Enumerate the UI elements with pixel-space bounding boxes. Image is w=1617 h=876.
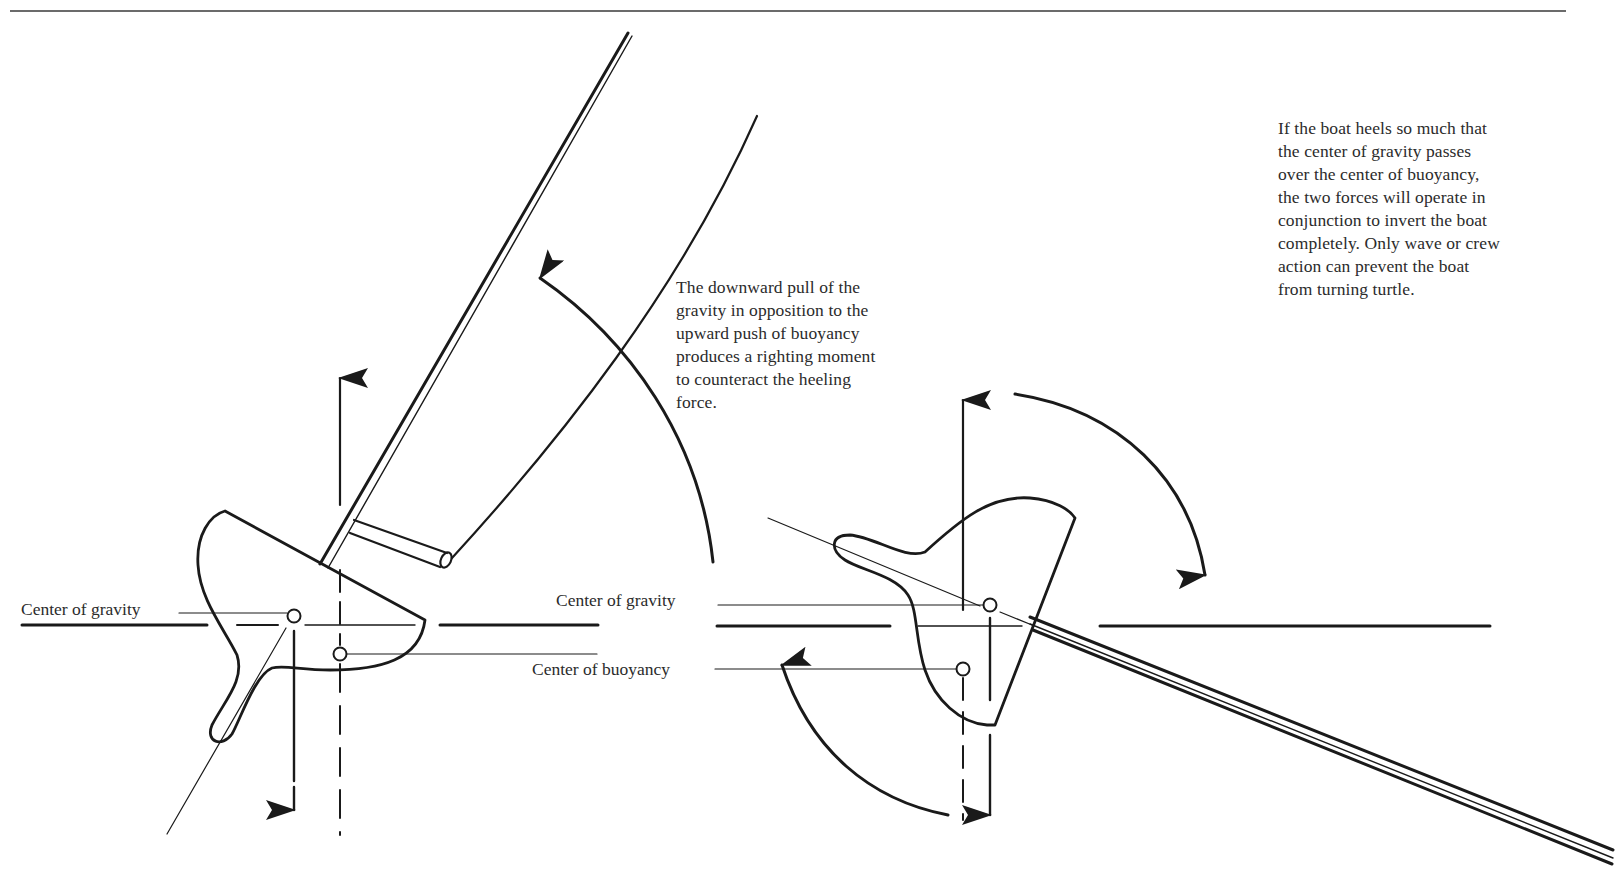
left-center-of-gravity-label: Center of gravity: [21, 599, 141, 620]
righting-moment-caption: The downward pull of the gravity in oppo…: [676, 276, 946, 414]
right-boat-figure: [715, 394, 1613, 864]
left-hull: [198, 511, 425, 742]
center-of-buoyancy-label: Center of buoyancy: [532, 659, 670, 680]
left-mast: [320, 33, 628, 564]
left-boom: [354, 520, 447, 553]
left-boat-figure: [22, 33, 757, 835]
right-cg-marker: [984, 599, 997, 612]
counter-arc-arrow: [782, 665, 948, 815]
capsize-arc-arrow: [1015, 394, 1205, 575]
capsize-caption: If the boat heels so much that the cente…: [1278, 117, 1568, 301]
left-cb-marker: [334, 648, 347, 661]
right-center-of-gravity-label: Center of gravity: [556, 590, 676, 611]
left-cg-marker: [288, 610, 301, 623]
right-mast: [1030, 617, 1613, 850]
right-hull: [834, 498, 1075, 725]
right-cb-marker: [957, 663, 970, 676]
